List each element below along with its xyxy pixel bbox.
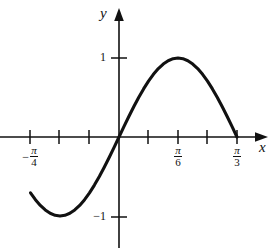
y-tick-label-1: 1 xyxy=(88,51,106,63)
y-tick-label-minus-1: −1 xyxy=(82,210,106,222)
plot-canvas xyxy=(0,0,277,248)
x-tick-label-pi-over-6: π 6 xyxy=(161,145,195,168)
fraction-denominator: 6 xyxy=(174,157,182,168)
graph-figure: y x 1 −1 −π4 π 6 π 3 xyxy=(0,0,277,248)
minus-sign: − xyxy=(22,151,30,163)
x-tick-label-minus-pi-over-4: −π4 xyxy=(13,145,47,168)
x-axis-label: x xyxy=(259,140,266,155)
x-tick-label-pi-over-3: π 3 xyxy=(220,145,254,168)
minus-pi-over-4: −π4 xyxy=(22,145,37,168)
fraction-denominator: 3 xyxy=(233,157,241,168)
fraction-denominator: 4 xyxy=(30,157,38,168)
fraction: π 6 xyxy=(174,145,182,168)
fraction: π4 xyxy=(30,145,38,168)
y-axis-arrow-icon xyxy=(114,8,124,21)
fraction: π 3 xyxy=(233,145,241,168)
y-axis-label: y xyxy=(100,6,107,21)
